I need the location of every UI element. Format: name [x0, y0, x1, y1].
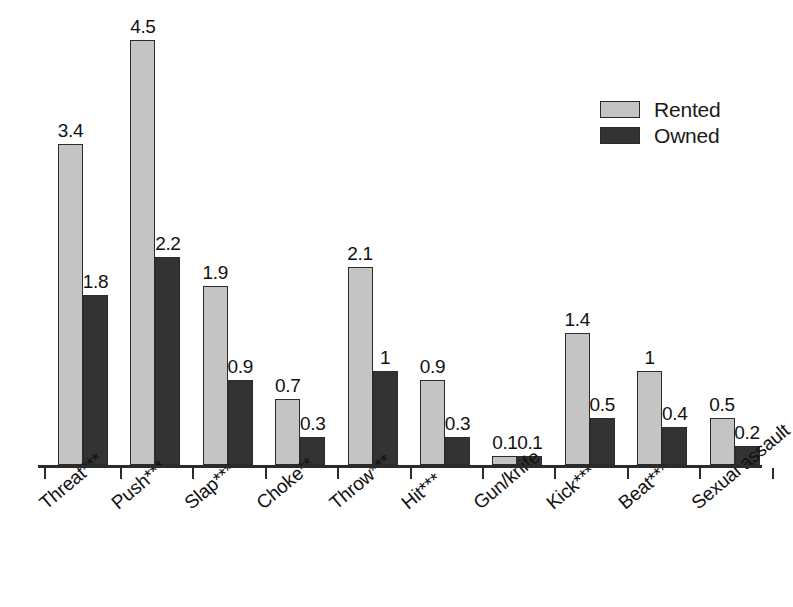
- bar-value-label: 0.9: [411, 357, 455, 376]
- bar-value-label: 1.8: [74, 272, 118, 291]
- bar-value-label: 0.3: [291, 414, 335, 433]
- bar-owned-7: [590, 418, 615, 465]
- chart-legend: Rented Owned: [600, 98, 721, 146]
- x-axis-label-2: Slap***: [181, 460, 239, 513]
- legend-item-owned: Owned: [600, 124, 721, 146]
- x-axis-tick: [554, 468, 556, 479]
- bar-value-label: 0.3: [436, 414, 480, 433]
- x-axis-tick: [482, 468, 484, 479]
- bar-value-label: 2.1: [338, 244, 382, 263]
- x-axis-tick: [699, 468, 701, 479]
- x-axis-tick: [120, 468, 122, 479]
- bar-value-label: 1.9: [193, 263, 237, 282]
- bar-value-label: 0.4: [653, 404, 697, 423]
- bar-value-label: 0.5: [700, 395, 744, 414]
- x-axis-tick: [265, 468, 267, 479]
- bar-value-label: 2.2: [146, 234, 190, 253]
- bar-value-label: 1.4: [555, 310, 599, 329]
- bar-value-label: 4.5: [121, 17, 165, 36]
- x-axis-tick: [337, 468, 339, 479]
- x-axis-tick: [772, 468, 774, 479]
- bar-owned-5: [445, 437, 470, 465]
- bar-owned-0: [83, 295, 108, 465]
- bar-value-label: 3.4: [49, 121, 93, 140]
- legend-label-owned: Owned: [654, 125, 720, 146]
- bar-rented-0: [58, 144, 83, 465]
- x-axis-tick: [627, 468, 629, 479]
- legend-item-rented: Rented: [600, 98, 721, 120]
- x-axis-tick: [192, 468, 194, 479]
- bar-owned-1: [155, 257, 180, 465]
- bar-value-label: 0.9: [218, 357, 262, 376]
- legend-label-rented: Rented: [654, 99, 721, 120]
- bar-owned-8: [662, 427, 687, 465]
- x-axis-label-7: Kick***: [543, 462, 599, 514]
- x-axis-line: [38, 465, 762, 468]
- bar-value-label: 0.5: [580, 395, 624, 414]
- x-axis-label-5: Hit***: [398, 470, 445, 514]
- bar-value-label: 1: [628, 348, 672, 367]
- bar-value-label: 1: [363, 348, 407, 367]
- x-axis-tick: [410, 468, 412, 479]
- bar-owned-4: [373, 371, 398, 465]
- bar-value-label: 0.7: [266, 376, 310, 395]
- x-axis-tick: [44, 468, 46, 479]
- legend-swatch-owned: [600, 127, 640, 144]
- bar-owned-2: [228, 380, 253, 465]
- legend-swatch-rented: [600, 101, 640, 118]
